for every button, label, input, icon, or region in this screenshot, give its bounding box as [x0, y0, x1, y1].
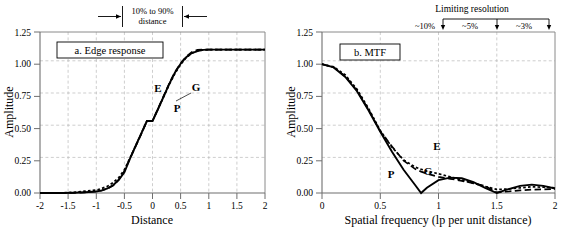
y-tick-label-b-1: 0.25	[296, 156, 313, 166]
panel-a-title: a. Edge response	[75, 45, 146, 56]
panel-mtf: 0.00 0.25 0.50 0.75 1.00 1.25 0 0.5 1 1.…	[280, 0, 561, 231]
x-axis-label-a: Distance	[131, 213, 173, 227]
y-tick-label-a-3: 0.75	[14, 91, 31, 101]
y-tick-label-b-0: 0.00	[296, 188, 313, 198]
y-tick-label-b-2: 0.50	[296, 124, 313, 134]
x-tick-label-b-0: 0	[320, 201, 325, 211]
y-tick-label-b-4: 1.00	[296, 59, 313, 69]
annotation-b-mark-5: ~5%	[462, 21, 478, 31]
curve-label-a-e: E	[154, 82, 161, 94]
annotation-b-heading: Limiting resolution	[435, 4, 509, 14]
x-tick-label-b-1: 0.5	[374, 201, 386, 211]
y-axis-ticks-b	[316, 32, 322, 193]
x-axis-ticks-a	[40, 193, 265, 199]
x-tick-label-a-2: -1	[92, 201, 100, 211]
curve-label-b-p: P	[388, 168, 395, 180]
y-axis-ticks-a	[34, 32, 40, 193]
annotation-b-mark-10: ~10%	[415, 21, 435, 31]
x-tick-label-b-2: 1	[436, 201, 441, 211]
annotation-limiting-resolution: Limiting resolution ~10% ~5% ~3%	[415, 4, 551, 31]
x-tick-label-a-5: 0.5	[175, 201, 187, 211]
leader-line-a-g	[176, 93, 191, 101]
x-tick-label-a-8: 2	[263, 201, 268, 211]
y-tick-label-a-2: 0.50	[14, 124, 31, 134]
x-tick-label-a-6: 1	[206, 201, 211, 211]
y-tick-label-a-1: 0.25	[14, 156, 31, 166]
x-tick-label-a-7: 1.5	[231, 201, 243, 211]
figure-container: 0.00 0.25 0.50 0.75 1.00 1.25 -2 -1.5 -1…	[0, 0, 561, 231]
panel-b-svg: 0.00 0.25 0.50 0.75 1.00 1.25 0 0.5 1 1.…	[280, 0, 561, 231]
x-axis-ticks-b	[322, 193, 555, 199]
x-tick-label-b-3: 1.5	[491, 201, 503, 211]
panel-a-title-box: a. Edge response	[57, 42, 163, 58]
x-axis-label-b: Spatial frequency (lp per unit distance)	[345, 213, 532, 227]
panel-a-svg: 0.00 0.25 0.50 0.75 1.00 1.25 -2 -1.5 -1…	[0, 0, 280, 231]
annotation-10-90-distance: 10% to 90% distance	[98, 6, 207, 27]
y-tick-label-a-5: 1.25	[14, 28, 31, 38]
x-tick-label-b-4: 2	[553, 201, 558, 211]
curve-label-b-e: E	[433, 140, 440, 152]
y-tick-label-a-0: 0.00	[14, 188, 31, 198]
annotation-a-line1: 10% to 90%	[131, 6, 173, 16]
y-tick-label-b-3: 0.75	[296, 91, 313, 101]
y-tick-label-b-5: 1.25	[296, 28, 313, 38]
x-tick-label-a-0: -2	[36, 201, 44, 211]
curve-label-b-g: G	[424, 165, 433, 177]
x-tick-label-a-4: 0	[150, 201, 155, 211]
y-tick-label-a-4: 1.00	[14, 59, 31, 69]
curve-label-a-g: G	[192, 81, 201, 93]
curve-label-a-p: P	[174, 102, 181, 114]
panel-edge-response: 0.00 0.25 0.50 0.75 1.00 1.25 -2 -1.5 -1…	[0, 0, 280, 231]
x-tick-label-a-3: -0.5	[117, 201, 132, 211]
annotation-b-mark-3: ~3%	[516, 21, 532, 31]
panel-b-title: b. MTF	[354, 47, 386, 58]
x-tick-label-a-1: -1.5	[61, 201, 76, 211]
y-axis-label-b: Amplitude	[284, 86, 298, 137]
annotation-a-line2: distance	[139, 16, 167, 26]
panel-b-title-box: b. MTF	[340, 44, 400, 60]
y-axis-label-a: Amplitude	[2, 86, 16, 137]
